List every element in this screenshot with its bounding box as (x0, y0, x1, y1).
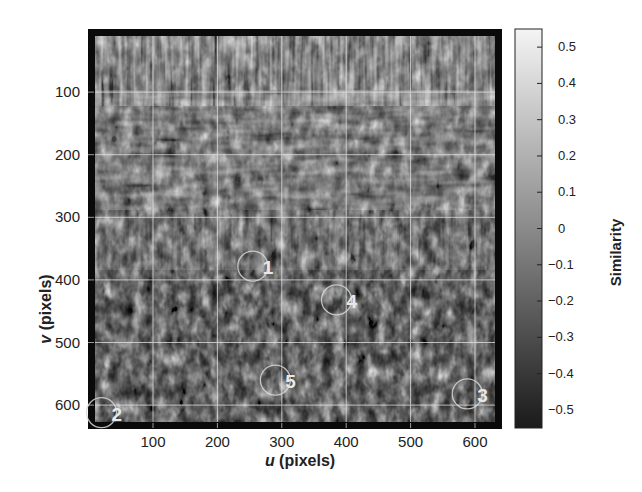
colorbar-tick-label: 0.4 (558, 76, 576, 89)
x-tick-label: 600 (450, 434, 500, 449)
colorbar-tick-label: 0.2 (558, 149, 576, 162)
colorbar-tick-label: 0.5 (558, 40, 576, 53)
colorbar-tick-label: −0.5 (548, 403, 574, 416)
x-tick-label: 400 (321, 434, 371, 449)
x-tick-label: 500 (386, 434, 436, 449)
colorbar-tick-label: −0.1 (548, 258, 574, 271)
x-tick-label: 100 (128, 434, 178, 449)
y-tick-label: 600 (40, 397, 80, 412)
x-axis-label: u (pixels) (220, 452, 380, 470)
y-tick-label: 100 (40, 84, 80, 99)
x-tick-label: 200 (192, 434, 242, 449)
y-tick-label: 300 (40, 209, 80, 224)
similarity-figure: 12345 100200300400500600 100200300400500… (0, 0, 642, 492)
x-tick-label: 300 (257, 434, 307, 449)
colorbar-tick-label: −0.2 (548, 294, 574, 307)
svg-text:2: 2 (111, 404, 122, 425)
colorbar-tick-label: −0.4 (548, 367, 574, 380)
svg-text:3: 3 (477, 385, 488, 406)
svg-text:4: 4 (347, 291, 358, 312)
colorbar-tick-label: −0.3 (548, 330, 574, 343)
svg-text:1: 1 (263, 257, 274, 278)
y-axis-label: v (pixels) (37, 229, 55, 389)
similarity-heatmap: 12345 (0, 0, 642, 492)
colorbar-tick-label: 0 (558, 222, 565, 235)
svg-text:5: 5 (285, 371, 296, 392)
colorbar-tick-label: 0.3 (558, 113, 576, 126)
colorbar-tick-label: 0.1 (558, 185, 576, 198)
colorbar-label: Similarity (607, 193, 624, 313)
y-tick-label: 200 (40, 147, 80, 162)
